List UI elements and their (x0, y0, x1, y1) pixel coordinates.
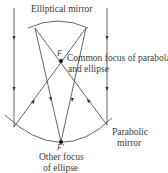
parabolic-mirror-label-1: Parabolic (112, 127, 148, 137)
parabolic-mirror (5, 115, 112, 142)
common-focus-label-1: Common focus of parabola (67, 53, 168, 63)
elliptical-mirror-label: Elliptical mirror (31, 4, 92, 14)
other-focus-label-2: of ellipse (43, 163, 78, 173)
arrow-down-icon (71, 98, 74, 102)
focus-f-point (59, 59, 63, 63)
arrow-down-icon (106, 87, 109, 91)
common-focus-label-2: and ellipse (68, 64, 109, 74)
elliptical-mirror (28, 21, 88, 28)
arrow-down-icon (13, 87, 16, 91)
parabolic-mirror-label-2: mirror (117, 138, 141, 148)
focus-f-label: F (57, 49, 62, 59)
arrow-down-icon (106, 36, 109, 40)
arrow-down-icon (13, 36, 16, 40)
other-focus-label-1: Other focus (39, 152, 84, 162)
mirror-diagram (0, 0, 168, 173)
